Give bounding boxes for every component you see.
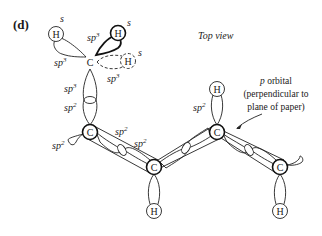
orbital-label-sp3: sp3 (87, 31, 100, 43)
orbital-label-sp3: sp3 (54, 56, 67, 68)
carbon-label: C (151, 162, 158, 173)
sp2-lobe-c3-h (211, 95, 222, 125)
p-orbital-envelope-bottom (86, 138, 276, 173)
carbon-label: C (214, 127, 221, 138)
sp2-lobe-c1-left (68, 134, 83, 145)
sp2-lobe-c4-right (287, 156, 303, 165)
overlap-ring (116, 143, 128, 157)
hydrogen-label: H (150, 206, 157, 217)
orbital-label-s: s (60, 13, 64, 24)
panel-label: (d) (13, 17, 29, 32)
hydrogen-label: H (52, 29, 59, 40)
hydrogen-label: H (124, 56, 131, 67)
orbital-label-sp3: sp3 (64, 82, 77, 94)
hydrogen-label: H (213, 84, 220, 95)
view-label: Top view (198, 30, 234, 41)
arrow-head-icon (236, 124, 242, 129)
carbon-label: C (87, 127, 94, 138)
orbital-label-sp2: sp2 (64, 101, 77, 113)
sp2-lobe-c2-h (148, 174, 159, 204)
carbon-label: C (277, 162, 284, 173)
p-orbital-annotation: p orbital (perpendicular to plane of pap… (236, 76, 309, 129)
orbital-label-s: s (127, 17, 131, 28)
hydrogen-label: H (114, 28, 121, 39)
annotation-line-1: p orbital (259, 76, 292, 86)
annotation-line-2: (perpendicular to (243, 89, 308, 100)
sp2-lobe-c4-h (274, 174, 285, 204)
methyl-carbon-label: C (87, 57, 94, 68)
overlap-ring (84, 97, 96, 104)
orbital-label-sp2: sp2 (193, 101, 206, 113)
annotation-line-3: plane of paper) (247, 102, 305, 113)
orbital-label-sp3: sp3 (107, 72, 120, 84)
orbital-label-sp2: sp2 (115, 125, 128, 137)
orbital-label-sp2: sp2 (52, 139, 65, 151)
orbital-diagram: (d) Top view H H H C s s s sp3 sp3 sp3 s… (0, 0, 322, 236)
hydrogen-label: H (276, 206, 283, 217)
methyl-group: H H H C s s s sp3 sp3 sp3 sp3 sp2 (49, 13, 143, 125)
orbital-label-sp2: sp2 (134, 137, 147, 149)
orbital-label-s: s (138, 47, 142, 58)
